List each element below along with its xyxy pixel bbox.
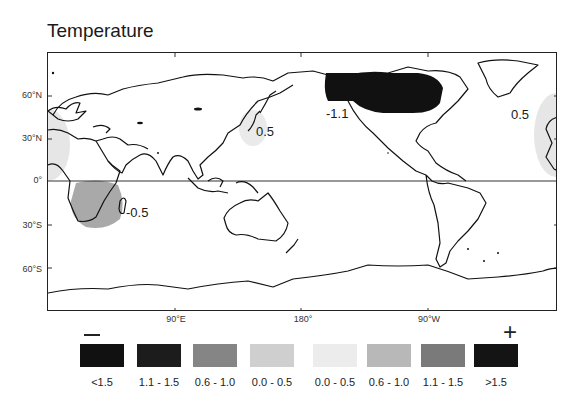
lat-label-60s: 60°S [2, 264, 42, 274]
lat-label-equator: 0° [2, 175, 42, 185]
legend-label: 1.1 - 1.5 [129, 376, 189, 388]
legend-label: 0.0 - 0.5 [305, 376, 365, 388]
legend-positive-sign: + [503, 320, 517, 344]
lon-label-90w: 90°W [409, 314, 449, 324]
legend-label: 0.6 - 1.0 [359, 376, 419, 388]
anomaly-europe-east [534, 93, 557, 177]
legend-swatch-pos-1.1-1.5 [421, 344, 465, 367]
legend-swatch-pos-0.0-0.5 [313, 344, 357, 367]
coastline-map [48, 53, 557, 311]
lat-label-30s: 30°S [2, 220, 42, 230]
legend-swatch-neg-1.1-1.5 [137, 344, 181, 367]
lon-label-180: 180° [283, 314, 323, 324]
legend-swatch-pos-0.6-1.0 [367, 344, 411, 367]
lat-label-30n: 30°N [2, 133, 42, 143]
legend-negative-sign [84, 322, 100, 336]
legend-swatch-neg-0.0-0.5 [250, 344, 294, 367]
legend-swatch-neg-gt1.5 [80, 344, 124, 367]
lon-label-90e: 90°E [156, 314, 196, 324]
legend-label: >1.5 [466, 376, 526, 388]
legend-label: <1.5 [72, 376, 132, 388]
anomaly-label-japan: 0.5 [256, 124, 274, 139]
legend-label: 0.6 - 1.0 [185, 376, 245, 388]
legend-swatch-pos-gt1.5 [474, 344, 518, 367]
anomaly-label-europe: 0.5 [511, 107, 529, 122]
map-title: Temperature [47, 20, 154, 42]
legend-label: 0.0 - 0.5 [242, 376, 302, 388]
legend-label: 1.1 - 1.5 [413, 376, 473, 388]
anomaly-label-southern-africa: -0.5 [126, 205, 148, 220]
anomaly-label-north-pacific: -1.1 [326, 106, 348, 121]
legend-swatch-neg-0.6-1.0 [193, 344, 237, 367]
lat-label-60n: 60°N [2, 90, 42, 100]
world-map [47, 52, 557, 311]
